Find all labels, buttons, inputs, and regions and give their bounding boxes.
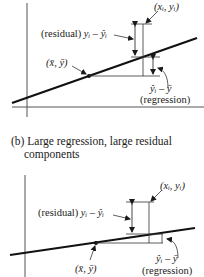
- regression-label: (regression): [142, 265, 193, 277]
- mean-pointer: [90, 246, 95, 260]
- regression-line: [10, 228, 195, 255]
- regression-expr-label: ŷᵢ – ȳ: [155, 253, 178, 264]
- diagram-bottom: (xᵢ, yᵢ) (residual) yᵢ – ŷᵢ (x̄, ȳ) ŷᵢ …: [0, 0, 204, 277]
- residual-pointer: [113, 215, 130, 219]
- point-label: (xᵢ, yᵢ): [160, 180, 185, 192]
- residual-label: (residual) yᵢ – ŷᵢ: [38, 207, 104, 219]
- point-pointer: [151, 190, 162, 201]
- mean-label: (x̄, ȳ): [75, 263, 97, 275]
